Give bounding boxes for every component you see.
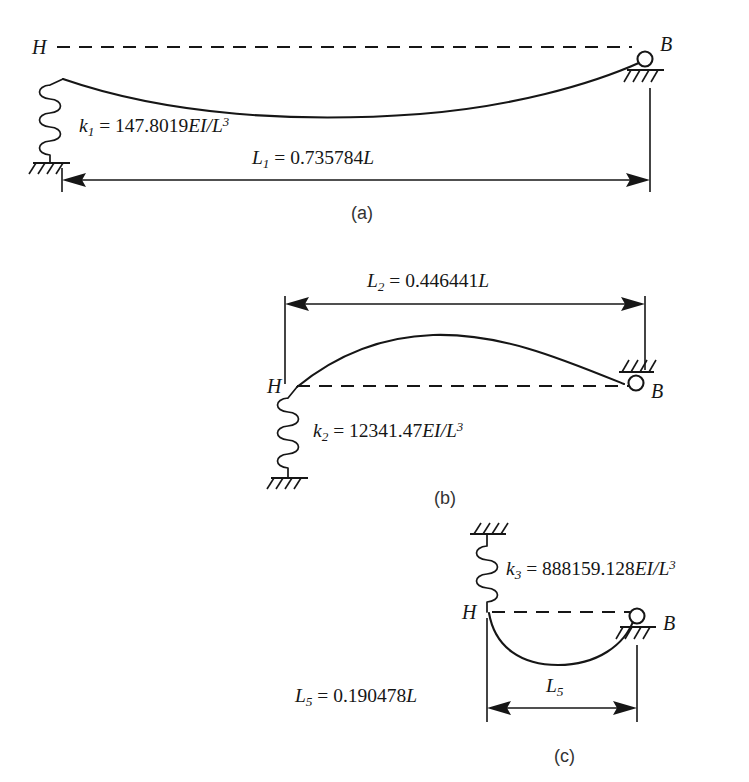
panel-b-spring-coil (278, 387, 299, 478)
panel-a-caption: (a) (351, 204, 373, 222)
panel-a-dim-equals: = (274, 147, 285, 168)
panel-c-k-subscript: 3 (515, 567, 522, 582)
panel-b-dim-symbol: L (367, 270, 378, 291)
panel-a-ground-support (29, 163, 70, 174)
panel-a-coefficient: 147.8019 (115, 115, 188, 136)
panel-c-dimension-value-label: L5 = 0.190478L (295, 686, 417, 708)
panel-c-dimension-arrow-label: L5 (546, 676, 563, 698)
panel-a-node-label-h: H (32, 37, 46, 57)
panel-c-spring-coil (477, 534, 498, 612)
beam-spring-figure: H B k1 = 147.8019EI/L3 L1 = 0.735784L (a… (0, 0, 749, 782)
panel-a-exponent: 3 (223, 115, 229, 129)
panel-c-spring-stiffness-formula: k3 = 888159.128EI/L3 (506, 559, 676, 581)
panel-a-equals: = (99, 115, 110, 136)
panel-b-caption: (b) (434, 489, 456, 507)
panel-b-ground-support (267, 478, 308, 489)
panel-a-k-symbol: k (79, 115, 88, 136)
panel-c-beam-curve (489, 613, 634, 665)
panel-a-flexural-term: EI/L (188, 115, 223, 136)
panel-c-k-symbol: k (506, 558, 515, 579)
panel-c-dimval-subscript: 5 (306, 694, 313, 709)
panel-b-dim-equals: = (389, 270, 400, 291)
panel-c-flexural-term: EI/L (635, 558, 670, 579)
panel-c-node-label-h: H (462, 602, 476, 622)
panel-b-spring-stiffness-formula: k2 = 12341.47EI/L3 (313, 421, 463, 443)
panel-a-dim-value: 0.735784 (290, 147, 363, 168)
panel-a-dim-symbol: L (252, 147, 263, 168)
panel-b-flexural-term: EI/L (422, 420, 457, 441)
panel-c-dimval-symbol: L (295, 685, 306, 706)
panel-c-equals: = (526, 558, 537, 579)
panel-c-dimval-unit: L (406, 685, 417, 706)
panel-a-dimension-line (62, 173, 650, 187)
panel-b-dimension-label: L2 = 0.446441L (367, 271, 489, 293)
panel-b-beam-curve (297, 335, 624, 387)
panel-b-graphics (267, 296, 656, 489)
panel-b-dim-subscript: 2 (378, 279, 385, 294)
panel-b-exponent: 3 (457, 420, 463, 434)
panel-a-beam-curve (63, 62, 641, 118)
panel-c-exponent: 3 (669, 558, 675, 572)
panel-b-dim-value: 0.446441 (405, 270, 478, 291)
panel-a-node-label-b: B (660, 34, 672, 54)
panel-b-node-label-b: B (651, 381, 663, 401)
panel-c-coefficient: 888159.128 (542, 558, 635, 579)
panel-a-dimension-label: L1 = 0.735784L (252, 148, 374, 170)
panel-b-k-subscript: 2 (322, 429, 329, 444)
panel-a-dim-subscript: 1 (263, 156, 270, 171)
panel-c-dimarrow-symbol: L (546, 675, 557, 696)
panel-c-dimval-equals: = (317, 685, 328, 706)
panel-a-spring-stiffness-formula: k1 = 147.8019EI/L3 (79, 116, 229, 138)
panel-b-dimension-line (285, 297, 645, 311)
panel-c-caption: (c) (554, 747, 575, 765)
panel-b-dim-unit: L (478, 270, 489, 291)
panel-c-node-label-b: B (663, 613, 675, 633)
panel-c-dimval-value: 0.190478 (333, 685, 406, 706)
panel-c-dimension-line (487, 701, 637, 715)
panel-a-spring-coil (40, 79, 64, 163)
panel-c-roller-support-b (616, 609, 656, 640)
panel-c-dimarrow-subscript: 5 (557, 684, 564, 699)
panel-b-equals: = (333, 420, 344, 441)
panel-b-coefficient: 12341.47 (349, 420, 422, 441)
panel-a-k-subscript: 1 (88, 124, 95, 139)
panel-a-dim-unit: L (363, 147, 374, 168)
panel-b-node-label-h: H (267, 376, 281, 396)
panel-c-ground-support (470, 523, 508, 534)
panel-b-k-symbol: k (313, 420, 322, 441)
